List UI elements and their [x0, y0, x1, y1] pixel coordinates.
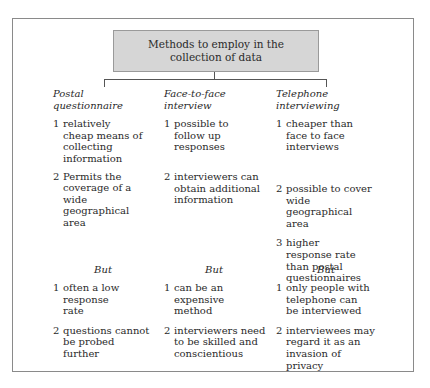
disadvantage-item: 1 only people with telephone can be inte… [276, 282, 371, 317]
disadvantage-item: 1 can be an expensive method [164, 282, 264, 317]
column-telephone: Telephone interviewing 1 cheaper than fa… [276, 88, 396, 284]
column-postal: Postal questionnaire 1 relatively cheap … [53, 88, 173, 229]
column-heading: Postal questionnaire [53, 88, 133, 111]
title-box: Methods to employ in the collection of d… [113, 30, 319, 72]
title-text: Methods to employ in the collection of d… [141, 38, 291, 64]
advantage-item: 1 cheaper than face to face interviews [276, 118, 376, 153]
disadvantages-postal: 1 often a low response rate 2 questions … [53, 282, 173, 360]
connector-right-drop [326, 79, 327, 87]
advantage-item: 1 possible to follow up responses [164, 118, 239, 153]
connector-stem [214, 72, 215, 79]
column-heading: Telephone interviewing [276, 88, 356, 111]
but-label: But [43, 264, 163, 275]
column-face-to-face: Face-to-face interview 1 possible to fol… [164, 88, 284, 206]
disadvantage-item: 2 interviewees may regard it as an invas… [276, 325, 376, 371]
but-label: But [266, 264, 386, 275]
advantage-item: 2 possible to cover wide geographical ar… [276, 183, 374, 229]
advantage-item: 1 relatively cheap means of collecting i… [53, 118, 143, 164]
but-label: But [154, 264, 274, 275]
disadvantage-item: 1 often a low response rate [53, 282, 131, 317]
advantage-item: 2 Permits the coverage of a wide geograp… [53, 171, 151, 229]
disadvantages-telephone: 1 only people with telephone can be inte… [276, 282, 396, 371]
advantage-item: 2 interviewers can obtain additional inf… [164, 171, 264, 206]
disadvantage-item: 2 interviewers need to be skilled and co… [164, 325, 266, 360]
disadvantage-item: 2 questions cannot be probed further [53, 325, 151, 360]
advantage-item: 3 higher response rate than postal quest… [276, 237, 368, 283]
connector-bar [104, 79, 327, 80]
connector-left-drop [104, 79, 105, 87]
column-heading: Face-to-face interview [164, 88, 244, 111]
disadvantages-face-to-face: 1 can be an expensive method 2 interview… [164, 282, 284, 360]
